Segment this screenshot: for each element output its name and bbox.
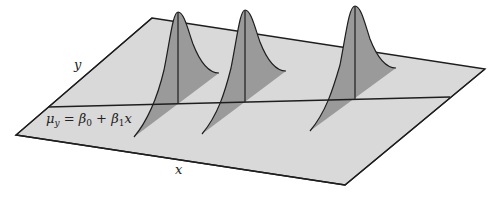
x-axis-label: x [175, 163, 182, 176]
regression-equation: μy = β0 + β1x [46, 112, 132, 128]
diagram-canvas [0, 0, 500, 197]
beta1-symbol: β [111, 111, 119, 126]
regression-diagram: y x μy = β0 + β1x [0, 0, 500, 197]
equals-sign: = [60, 111, 79, 126]
x-variable: x [124, 111, 131, 126]
y-axis-label: y [74, 58, 81, 71]
plus-sign: + [92, 111, 111, 126]
